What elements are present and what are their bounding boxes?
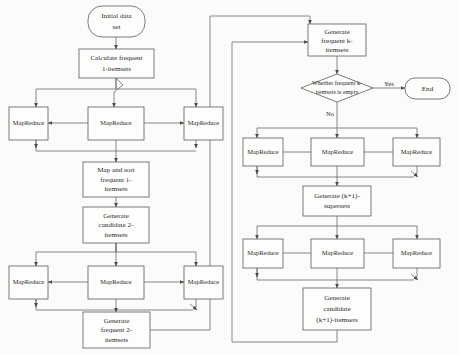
node-mapreduce-row3-right-label: MapReduce [401,148,433,155]
node-mapreduce-row3-center[interactable]: MapReduce [311,138,364,166]
edge-calc-to-mr1-right [116,78,196,107]
node-mapreduce-row4-right[interactable]: MapReduce [393,239,440,268]
node-generate-frequent-k-line3: itemsets [325,46,348,54]
node-mapreduce-row2-center-label: MapReduce [100,278,132,285]
edge-label-yes: Yes [384,80,394,87]
node-generate-candidate-2-line1: Generate [103,212,129,220]
node-generate-frequent-k-line2: frequent k- [321,37,353,45]
node-mapreduce-row1-left[interactable]: MapReduce [9,107,48,140]
node-map-and-sort-line1: Map and sort [97,166,134,174]
flowchart-svg: Initial data set Calculate frequent 1-it… [0,0,459,355]
edge-mr3-left-merge [257,166,414,177]
node-generate-frequent-k-line1: Generate [324,28,350,36]
node-mapreduce-row2-left-label: MapReduce [13,278,45,285]
node-mapreduce-row1-center[interactable]: MapReduce [88,107,144,140]
node-generate-k1-supersets[interactable]: Generate (k+1)- supersets [303,186,371,216]
node-generate-k1-supersets-line1: Generate (k+1)- [314,192,360,200]
node-mapreduce-row4-center[interactable]: MapReduce [311,239,364,268]
node-generate-frequent-2-line1: Generate [104,317,130,325]
node-initial-data-set[interactable]: Initial data set [88,6,145,37]
node-calculate-frequent-1-line2: 1-itemsets [102,65,131,73]
edge-label-no: No [326,110,335,117]
node-mapreduce-row4-left-label: MapReduce [247,249,279,256]
node-initial-data-set-line1: Initial data [101,12,132,20]
node-mapreduce-row3-right[interactable]: MapReduce [393,138,440,166]
node-generate-candidate-k1-line3: (k+1)-itemsets [316,316,358,324]
node-mapreduce-row2-center[interactable]: MapReduce [88,266,144,299]
node-calculate-frequent-1-itemsets[interactable]: Calculate frequent 1-itemsets [79,49,154,78]
node-generate-frequent-2-itemsets[interactable]: Generate frequent 2- itemsets [83,312,150,348]
node-whether-empty-line1: Whether frequent k- [312,79,362,86]
node-mapreduce-row3-left-label: MapReduce [247,148,279,155]
node-mapreduce-row2-right-label: MapReduce [188,278,220,285]
node-generate-candidate-k1-line1: Generate [324,294,350,302]
node-map-and-sort-frequent-1-itemsets[interactable]: Map and sort frequent 1- itemsets [83,162,149,197]
node-mapreduce-row1-left-label: MapReduce [13,119,45,126]
node-end-label: End [422,85,434,93]
node-mapreduce-row4-right-label: MapReduce [401,249,433,256]
node-generate-frequent-2-line2: frequent 2- [101,326,133,334]
edge-calc-to-mr1-left [36,78,116,107]
edge-calc-to-mr1-center [114,78,123,107]
edge-candidate2-to-mr2-left [36,243,116,266]
node-end[interactable]: End [405,78,450,99]
node-generate-candidate-2-line3: itemsets [104,231,127,239]
node-mapreduce-row2-left[interactable]: MapReduce [9,266,48,299]
node-mapreduce-row3-center-label: MapReduce [322,148,354,155]
node-mapreduce-row2-right[interactable]: MapReduce [184,266,223,299]
node-generate-candidate-2-line2: candidate 2- [99,221,134,229]
edge-decision-no-to-mr3-right [337,128,417,138]
edge-decision-no-to-mr3-left [257,102,337,138]
node-calculate-frequent-1-line1: Calculate frequent [90,54,142,62]
node-whether-frequent-k-itemsets-is-empty[interactable]: Whether frequent k- itemsets is empty [301,74,373,102]
node-map-and-sort-line3: itemsets [104,185,127,193]
node-generate-frequent-k-itemsets[interactable]: Generate frequent k- itemsets [308,24,366,56]
node-generate-candidate-k1-line2: candidate [323,305,350,313]
node-generate-candidate-k1-itemsets[interactable]: Generate candidate (k+1)-itemsets [303,288,371,330]
node-mapreduce-row4-center-label: MapReduce [322,249,354,256]
edge-supersets-to-mr4-left [257,216,337,239]
edge-mr4-left-merge [257,268,414,280]
node-mapreduce-row3-left[interactable]: MapReduce [243,138,283,166]
edge-freq2-to-freqk [150,16,310,330]
node-mapreduce-row1-center-label: MapReduce [100,119,132,126]
node-whether-empty-line2: itemsets is empty [316,88,360,95]
edge-candidate2-to-mr2-right [116,243,196,266]
edge-mr2-left-merge [36,299,193,310]
node-mapreduce-row1-right-label: MapReduce [188,119,220,126]
node-mapreduce-row4-left[interactable]: MapReduce [243,239,283,268]
node-generate-frequent-2-line3: itemsets [105,336,128,344]
node-generate-k1-supersets-line2: supersets [324,202,350,210]
node-map-and-sort-line2: frequent 1- [100,176,132,184]
node-mapreduce-row1-right[interactable]: MapReduce [184,107,223,140]
flowchart-canvas: Initial data set Calculate frequent 1-it… [0,0,459,355]
node-initial-data-set-line2: set [113,23,121,31]
node-generate-candidate-2-itemsets[interactable]: Generate candidate 2- itemsets [83,207,149,243]
edge-supersets-to-mr4-right [337,226,417,239]
